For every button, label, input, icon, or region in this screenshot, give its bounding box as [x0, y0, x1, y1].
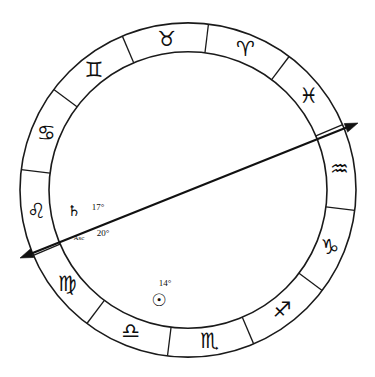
- axis-group: [20, 123, 358, 258]
- sector-divider: [326, 207, 355, 211]
- sign-glyph-leo: ♌: [27, 199, 46, 223]
- sun-glyph: ☉: [151, 290, 166, 310]
- arrow-head-descendant: [344, 123, 358, 132]
- sign-glyph-gemini: ♊: [84, 58, 103, 82]
- sign-glyph-sagittarius: ♐: [273, 298, 292, 322]
- sector-divider: [21, 170, 50, 174]
- sign-glyph-cancer: ♋: [37, 121, 56, 145]
- sector-divider: [272, 57, 289, 80]
- sign-glyph-pisces: ♓: [299, 84, 318, 108]
- sector-divider: [242, 317, 253, 344]
- sign-glyph-virgo: ♍: [58, 272, 77, 296]
- sign-glyph-taurus: ♉: [157, 27, 176, 51]
- ascendant-glyph: Asc: [74, 234, 85, 242]
- sector-divider: [87, 300, 104, 323]
- sun-degree-label: 14°: [159, 278, 172, 288]
- sign-glyph-aries: ♈: [236, 37, 255, 61]
- saturn-degree-label: 17°: [92, 202, 105, 212]
- astrology-chart: ♈♉♊♋♌♍♎♏♐♑♒♓ ♄17°Asc20°☉14°: [0, 0, 375, 377]
- saturn-glyph: ♄: [67, 202, 80, 220]
- sign-glyph-libra: ♎: [121, 319, 140, 343]
- sign-glyph-capricorn: ♑: [320, 235, 339, 259]
- sign-glyph-scorpio: ♏: [200, 329, 219, 353]
- sector-divider: [33, 244, 60, 255]
- sector-divider: [205, 24, 209, 53]
- ascendant-degree-label: 20°: [97, 228, 110, 238]
- sector-divider: [54, 89, 77, 106]
- sector-divider: [168, 327, 172, 356]
- sign-glyph-aquarius: ♒: [330, 157, 349, 181]
- sector-divider: [299, 273, 322, 290]
- zodiac-wheel: ♈♉♊♋♌♍♎♏♐♑♒♓ ♄17°Asc20°☉14°: [0, 0, 375, 377]
- sector-divider: [122, 36, 133, 63]
